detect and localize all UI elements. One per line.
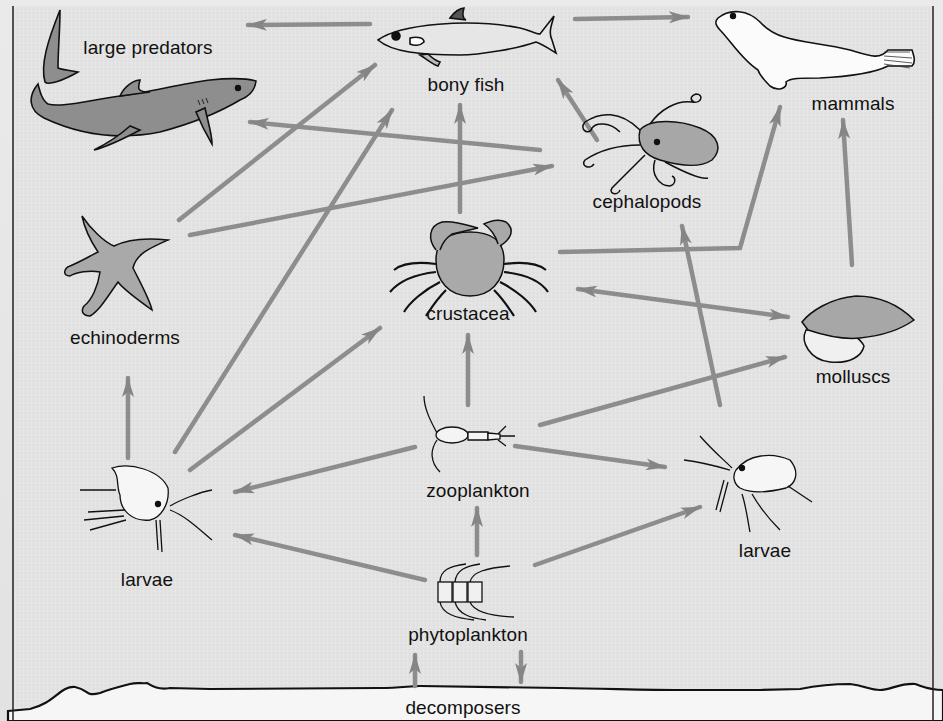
- label-decomposers: decomposers: [405, 697, 520, 719]
- label-larvae-right: larvae: [739, 540, 791, 562]
- food-web-diagram: large predators bony fish mammals cephal…: [0, 0, 943, 721]
- label-mammals: mammals: [811, 93, 894, 115]
- label-large-predators: large predators: [83, 37, 212, 59]
- label-bony-fish: bony fish: [428, 74, 505, 96]
- arrow-bonyfish-to-predators: [248, 24, 370, 25]
- food-web-canvas: [0, 0, 943, 721]
- label-echinoderms: echinoderms: [70, 327, 180, 349]
- label-phytoplankton: phytoplankton: [408, 624, 528, 646]
- arrow-bonyfish-to-mammals: [575, 17, 688, 19]
- label-cephalopods: cephalopods: [593, 191, 702, 213]
- label-crustacea: crustacea: [426, 303, 509, 325]
- label-molluscs: molluscs: [816, 366, 891, 388]
- label-zooplankton: zooplankton: [426, 480, 530, 502]
- label-larvae-left: larvae: [121, 569, 173, 591]
